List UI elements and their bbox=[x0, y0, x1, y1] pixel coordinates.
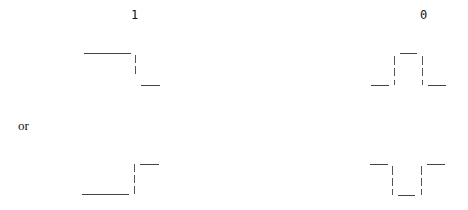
edge-dash bbox=[134, 175, 135, 183]
high-segment bbox=[427, 164, 445, 165]
high-segment bbox=[400, 53, 417, 54]
edge-dash bbox=[135, 66, 136, 74]
edge-dash bbox=[392, 178, 393, 186]
edge-dash bbox=[394, 68, 395, 76]
low-segment bbox=[398, 195, 415, 196]
edge-dash bbox=[394, 56, 395, 65]
low-segment bbox=[141, 85, 160, 86]
edge-dash bbox=[392, 189, 393, 195]
low-segment bbox=[428, 85, 446, 86]
edge-dash bbox=[135, 55, 136, 63]
or-text: or bbox=[18, 118, 29, 134]
edge-dash bbox=[421, 189, 422, 195]
edge-dash bbox=[422, 68, 423, 76]
bit-one-label: 1 bbox=[131, 8, 138, 22]
low-segment bbox=[82, 194, 129, 195]
low-segment bbox=[371, 85, 389, 86]
high-segment bbox=[84, 53, 131, 54]
bit-zero-label: 0 bbox=[420, 8, 427, 22]
edge-dash bbox=[134, 186, 135, 194]
edge-dash bbox=[422, 80, 423, 85]
edge-dash bbox=[392, 166, 393, 175]
high-segment bbox=[370, 164, 388, 165]
edge-dash bbox=[394, 80, 395, 85]
edge-dash bbox=[421, 166, 422, 175]
edge-dash bbox=[421, 178, 422, 186]
edge-dash bbox=[134, 164, 135, 172]
high-segment bbox=[140, 164, 159, 165]
edge-dash bbox=[422, 56, 423, 65]
